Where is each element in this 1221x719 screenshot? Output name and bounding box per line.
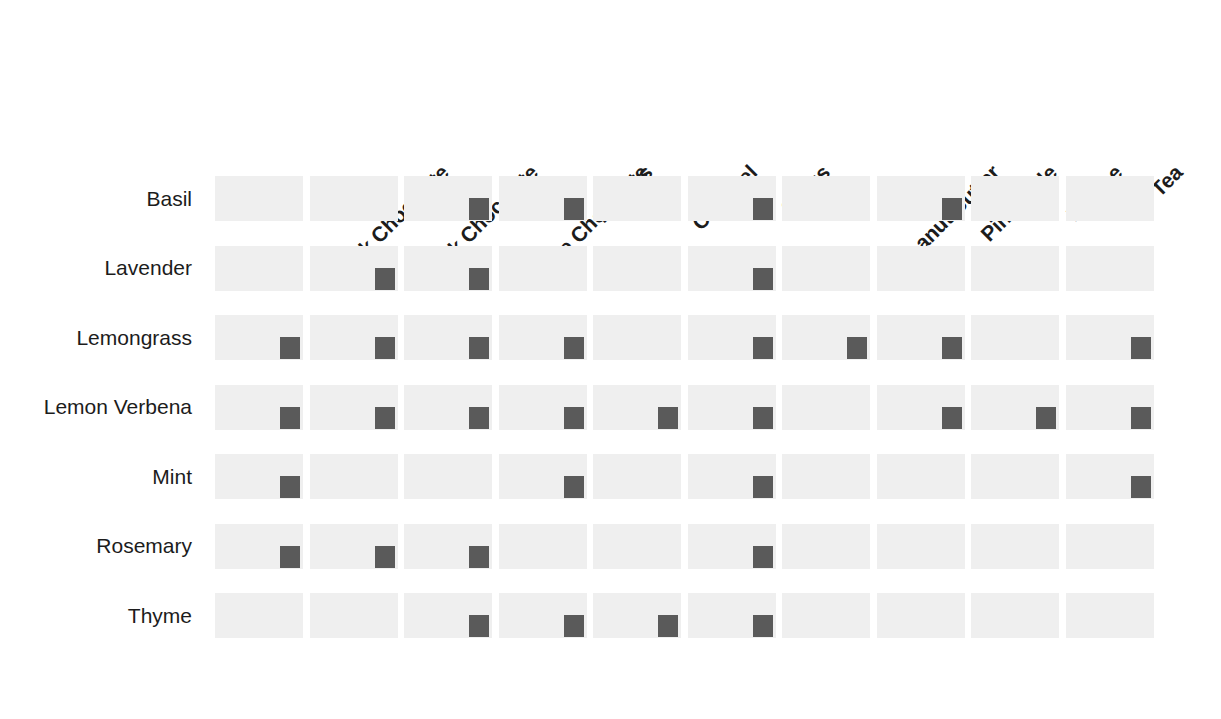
matrix-cell-mark: [469, 615, 489, 637]
matrix-cell-mark: [564, 407, 584, 429]
matrix-cell: [1066, 593, 1154, 638]
matrix-cell-mark: [469, 337, 489, 359]
matrix-cell: [877, 246, 965, 291]
matrix-cell: [593, 454, 681, 499]
matrix-cell: [877, 454, 965, 499]
matrix-cell: [971, 246, 1059, 291]
matrix-cell: [782, 454, 870, 499]
matrix-cell-mark: [375, 546, 395, 568]
matrix-cell-mark: [658, 615, 678, 637]
matrix-cell-mark: [375, 407, 395, 429]
matrix-plot-area: [215, 176, 1165, 676]
matrix-cell: [215, 593, 303, 638]
matrix-cell: [782, 593, 870, 638]
matrix-cell: [593, 176, 681, 221]
matrix-cell-mark: [469, 407, 489, 429]
matrix-cell: [310, 593, 398, 638]
matrix-cell: [1066, 176, 1154, 221]
matrix-cell-mark: [469, 198, 489, 220]
matrix-cell-mark: [1131, 337, 1151, 359]
flavor-pairing-matrix-chart: Dark ChocolateMilk ChocolateWhite Chocol…: [0, 0, 1221, 719]
matrix-cell-mark: [469, 268, 489, 290]
matrix-cell: [971, 524, 1059, 569]
matrix-cell-mark: [847, 337, 867, 359]
matrix-cell: [404, 454, 492, 499]
matrix-cell: [593, 315, 681, 360]
row-label-lemon-verbena: Lemon Verbena: [44, 396, 192, 417]
matrix-cell-mark: [942, 337, 962, 359]
matrix-cell-mark: [753, 337, 773, 359]
matrix-cell: [971, 176, 1059, 221]
row-label-basil: Basil: [146, 188, 192, 209]
matrix-cell-mark: [280, 476, 300, 498]
matrix-cell-mark: [753, 198, 773, 220]
matrix-cell: [971, 593, 1059, 638]
row-label-lavender: Lavender: [104, 257, 192, 278]
row-label-thyme: Thyme: [128, 605, 192, 626]
matrix-cell-mark: [753, 546, 773, 568]
matrix-cell: [971, 454, 1059, 499]
matrix-cell-mark: [375, 337, 395, 359]
column-header-axis: Dark ChocolateMilk ChocolateWhite Chocol…: [0, 0, 1221, 176]
row-label-mint: Mint: [152, 466, 192, 487]
matrix-cell: [499, 524, 587, 569]
matrix-cell: [593, 246, 681, 291]
matrix-cell: [499, 246, 587, 291]
matrix-cell: [971, 315, 1059, 360]
matrix-cell-mark: [942, 198, 962, 220]
matrix-cell-mark: [469, 546, 489, 568]
row-label-rosemary: Rosemary: [96, 535, 192, 556]
matrix-cell-mark: [753, 615, 773, 637]
matrix-cell-mark: [280, 337, 300, 359]
matrix-cell-mark: [280, 407, 300, 429]
matrix-cell-mark: [942, 407, 962, 429]
matrix-cell: [782, 524, 870, 569]
matrix-cell-mark: [564, 476, 584, 498]
matrix-cell-mark: [564, 337, 584, 359]
matrix-cell-mark: [753, 407, 773, 429]
matrix-cell-mark: [375, 268, 395, 290]
matrix-cell-mark: [1131, 476, 1151, 498]
matrix-cell: [593, 524, 681, 569]
matrix-cell-mark: [1036, 407, 1056, 429]
matrix-cell-mark: [658, 407, 678, 429]
matrix-cell: [310, 176, 398, 221]
matrix-cell: [215, 246, 303, 291]
matrix-cell: [877, 524, 965, 569]
matrix-cell-mark: [1131, 407, 1151, 429]
row-label-lemongrass: Lemongrass: [76, 327, 192, 348]
matrix-cell: [1066, 246, 1154, 291]
matrix-cell-mark: [280, 546, 300, 568]
matrix-cell: [310, 454, 398, 499]
matrix-cell: [215, 176, 303, 221]
matrix-cell: [1066, 524, 1154, 569]
matrix-cell-mark: [753, 268, 773, 290]
matrix-cell: [877, 593, 965, 638]
matrix-cell: [782, 246, 870, 291]
matrix-cell-mark: [564, 198, 584, 220]
matrix-cell: [782, 176, 870, 221]
matrix-cell-mark: [753, 476, 773, 498]
matrix-cell: [782, 385, 870, 430]
matrix-cell-mark: [564, 615, 584, 637]
